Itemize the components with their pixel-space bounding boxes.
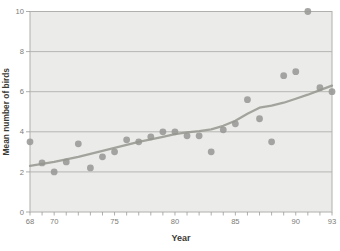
x-tick-label-75: 75 [110,217,118,226]
data-point-86 [244,96,251,103]
x-tick-label-93: 93 [328,217,336,226]
data-point-70 [51,169,58,176]
y-tick-label-6: 6 [20,87,24,96]
data-point-88 [268,138,275,145]
plot-area: 687075808590930246810 [16,7,337,226]
data-point-90 [292,68,299,75]
x-tick-label-85: 85 [231,217,239,226]
data-point-91 [304,8,311,15]
x-tick-label-90: 90 [292,217,300,226]
data-point-72 [75,140,82,147]
data-point-87 [256,115,263,122]
data-point-83 [208,148,215,155]
chart-canvas: 687075808590930246810 Year Mean number o… [0,0,340,251]
plot-background [30,12,332,213]
x-tick-label-80: 80 [171,217,179,226]
y-tick-label-8: 8 [20,47,24,56]
data-point-74 [99,153,106,160]
data-point-68 [27,138,34,145]
data-point-76 [123,136,130,143]
y-tick-label-4: 4 [20,127,24,136]
data-point-93 [329,88,336,95]
data-point-89 [280,72,287,79]
y-tick-label-2: 2 [20,168,24,177]
data-point-79 [159,128,166,135]
y-tick-label-0: 0 [20,208,24,217]
y-tick-label-10: 10 [16,7,24,16]
y-axis-title: Mean number of birds [1,68,11,156]
data-point-82 [196,132,203,139]
x-tick-label-68: 68 [26,217,34,226]
data-point-73 [87,164,94,171]
x-axis-title: Year [171,233,191,243]
x-tick-label-70: 70 [50,217,58,226]
bird-count-chart-figure: 687075808590930246810 Year Mean number o… [0,0,340,251]
